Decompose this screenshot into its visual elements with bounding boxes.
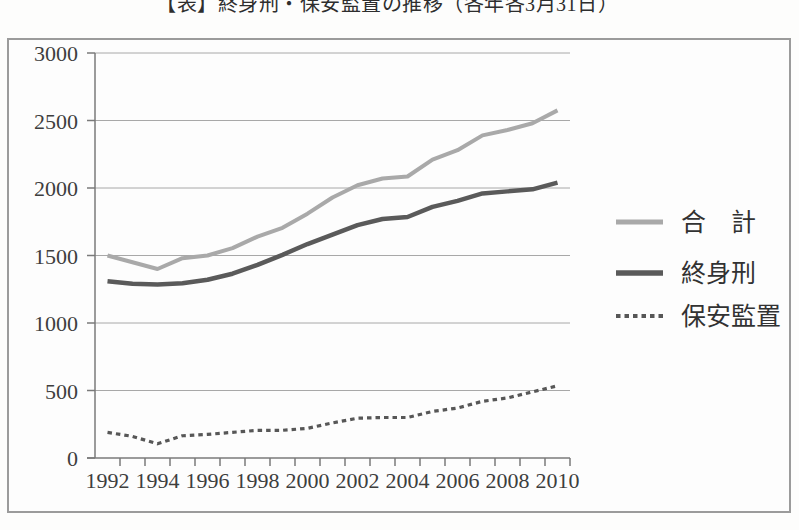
x-tick-label: 1992 [86,468,130,493]
x-tick-label: 1994 [136,468,180,493]
y-tick-label: 2000 [34,176,78,201]
y-tick-label: 2500 [34,109,78,134]
legend-label-life-sentence: 終身刑 [681,260,756,287]
x-tick-label: 1998 [236,468,280,493]
x-tick-label: 1996 [186,468,230,493]
y-tick-label: 1500 [34,244,78,269]
x-tick-label: 2010 [536,468,580,493]
y-tick-label: 1000 [34,311,78,336]
y-tick-label: 500 [45,379,78,404]
x-tick-label: 2002 [336,468,380,493]
y-tick-label: 3000 [34,41,78,66]
scanned-chart-page: 【表】終身刑・保安監置の推移（各年各3月31日） 300025002000150… [0,0,799,530]
chart-frame-border [8,39,790,512]
x-tick-label: 2004 [386,468,430,493]
line-chart: 300025002000150010005000 199219941996199… [0,0,799,530]
y-tick-label: 0 [67,446,78,471]
legend-label-preventive-detention: 保安監置 [681,303,781,330]
x-tick-label: 2000 [286,468,330,493]
legend-label-total: 合 計 [681,209,756,236]
x-tick-label: 2008 [486,468,530,493]
x-tick-label: 2006 [436,468,480,493]
figure-title: 【表】終身刑・保安監置の推移（各年各3月31日） [156,0,618,17]
